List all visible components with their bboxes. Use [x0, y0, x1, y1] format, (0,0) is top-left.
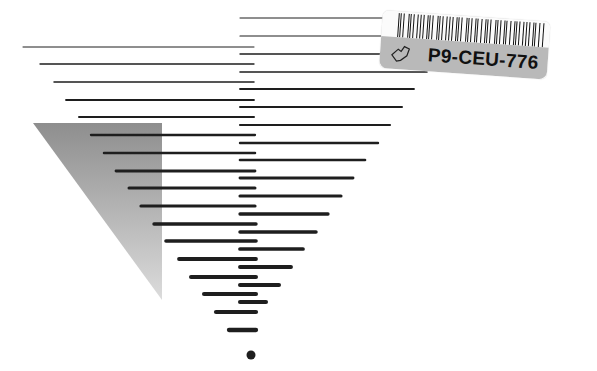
barcode-bar [451, 17, 453, 41]
barcode-bar [515, 21, 517, 45]
library-barcode-sticker: P9-CEU-776 [379, 10, 551, 80]
barcode-bar [541, 23, 543, 47]
barcode-bar [399, 13, 401, 37]
barcode-bar [428, 15, 430, 39]
left-lines-group [23, 47, 256, 330]
barcode-bar [505, 21, 507, 45]
barcode-bar [528, 22, 530, 46]
barcode-bar [508, 21, 510, 45]
barcode-bar [467, 18, 469, 42]
barcode-bar [476, 19, 478, 43]
barcode-bar [409, 14, 411, 38]
barcode-bar [534, 23, 536, 47]
barcode-bar [448, 17, 450, 41]
barcode-bar [441, 16, 443, 40]
barcode-bar [431, 16, 433, 40]
barcode-bar [412, 14, 414, 38]
gray-triangle-shape [33, 123, 162, 300]
barcode-bar [419, 15, 421, 39]
barcode-bar [524, 22, 526, 46]
barcode-bar [499, 20, 501, 44]
barcode-bar [537, 23, 539, 47]
barcode-bar [457, 17, 459, 41]
barcode-bar [422, 15, 424, 39]
barcode-bar [438, 16, 440, 40]
barcode-bar [470, 18, 472, 42]
barcode-bar [489, 20, 491, 44]
barcode-bar [518, 22, 520, 46]
barcode-bar [460, 18, 462, 42]
barcode-bar [403, 13, 405, 37]
barcode-bar [496, 20, 498, 44]
barcode-bar [479, 19, 481, 43]
hand-outline-icon [389, 43, 412, 64]
apex-dot [247, 351, 256, 360]
barcode-bar [486, 19, 488, 43]
